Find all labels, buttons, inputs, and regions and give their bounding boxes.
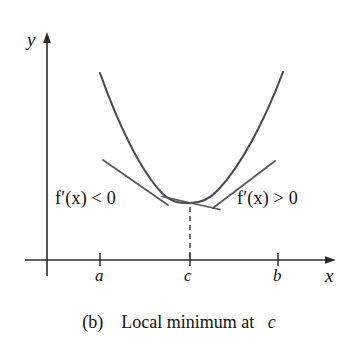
annotation-derivative-negative: f′(x) < 0	[55, 189, 116, 207]
plot-canvas	[0, 0, 358, 353]
tick-label-c: c	[184, 267, 192, 284]
x-axis-arrowhead-icon	[325, 256, 336, 264]
caption-text: Local minimum at	[121, 312, 254, 332]
axis-label-y: y	[27, 30, 35, 49]
axis-label-x: x	[325, 266, 333, 285]
caption-spacer-2	[259, 312, 264, 332]
figure-local-minimum: y x a c b f′(x) < 0 f′(x) > 0 (b) Local …	[0, 0, 358, 353]
tick-label-a: a	[95, 267, 104, 284]
tangent-line-vertex	[162, 197, 220, 210]
y-axis	[43, 32, 51, 276]
x-axis	[25, 256, 336, 264]
tick-label-b: b	[273, 267, 282, 284]
caption-spacer	[108, 312, 117, 332]
figure-caption: (b) Local minimum at c	[0, 312, 358, 333]
function-curve	[100, 72, 283, 203]
y-axis-arrowhead-icon	[43, 32, 51, 43]
caption-prefix: (b)	[82, 312, 103, 332]
caption-variable: c	[268, 312, 276, 332]
annotation-derivative-positive: f′(x) > 0	[237, 189, 298, 207]
